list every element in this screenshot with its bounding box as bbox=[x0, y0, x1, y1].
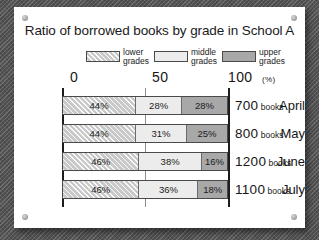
row-total-unit: books bbox=[258, 102, 283, 112]
row-total-value: 800 bbox=[235, 126, 258, 141]
axis-tick-50: 50 bbox=[152, 69, 168, 85]
bar-segment-upper-grades: 28% bbox=[181, 97, 227, 114]
row-total-may: 800 books bbox=[235, 124, 283, 145]
axis-tick-0: 0 bbox=[70, 69, 78, 85]
chart-row: May44%31%25%800 books bbox=[14, 124, 305, 143]
row-total-unit: books bbox=[258, 130, 283, 140]
axis-unit-percent: (%) bbox=[262, 75, 276, 84]
row-total-june: 1200 books bbox=[235, 152, 291, 173]
bar-segment-upper-grades: 18% bbox=[197, 181, 227, 198]
row-total-value: 1200 bbox=[235, 154, 266, 169]
row-total-value: 1100 bbox=[235, 182, 265, 197]
chart-row: June46%38%16%1200 books bbox=[14, 152, 305, 171]
plot-area: 0 50 100 (%) April44%28%28%700 booksMay4… bbox=[14, 7, 305, 228]
bar-segment-lower-grades: 46% bbox=[63, 181, 138, 198]
bar-segment-lower-grades: 44% bbox=[63, 97, 135, 114]
row-total-value: 700 bbox=[235, 98, 258, 113]
bar-segment-middle-grades: 38% bbox=[138, 153, 200, 170]
chart-row: April44%28%28%700 books bbox=[14, 96, 305, 115]
bar-segment-lower-grades: 46% bbox=[63, 153, 138, 170]
axis-tick-100: 100 bbox=[228, 69, 253, 85]
stacked-bar-may: 44%31%25% bbox=[62, 124, 228, 143]
row-total-unit: books bbox=[266, 158, 291, 168]
stacked-bar-april: 44%28%28% bbox=[62, 96, 228, 115]
bar-segment-lower-grades: 44% bbox=[63, 125, 135, 142]
bar-segment-upper-grades: 16% bbox=[201, 153, 227, 170]
chart-row: July46%36%18%1100 books bbox=[14, 180, 305, 199]
chart-card: Ratio of borrowed books by grade in Scho… bbox=[14, 7, 305, 228]
row-total-july: 1100 books bbox=[235, 180, 290, 201]
row-total-unit: books bbox=[265, 186, 290, 196]
bar-segment-upper-grades: 25% bbox=[186, 125, 227, 142]
bar-segment-middle-grades: 31% bbox=[135, 125, 186, 142]
stacked-bar-june: 46%38%16% bbox=[62, 152, 228, 171]
stacked-bar-july: 46%36%18% bbox=[62, 180, 228, 199]
bar-segment-middle-grades: 28% bbox=[135, 97, 181, 114]
bar-segment-middle-grades: 36% bbox=[138, 181, 197, 198]
row-total-april: 700 books bbox=[235, 96, 283, 117]
